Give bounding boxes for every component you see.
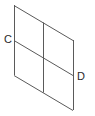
point-d-label: D (77, 71, 85, 82)
parallelogram-diagram (0, 0, 95, 116)
point-c-label: C (4, 34, 12, 45)
